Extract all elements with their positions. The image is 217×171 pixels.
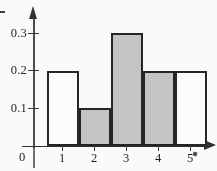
histogram-figure: 0.3 0.2 0.1 0 1 2 3 4 5 [0, 0, 217, 171]
x-tick-label-5: 5 [182, 151, 198, 166]
y-tick-mark [28, 108, 39, 109]
y-tick-label-wrap: 0.3 [0, 26, 27, 40]
histogram-bar-5 [175, 71, 207, 146]
y-tick-label-wrap: 0.1 [0, 101, 27, 115]
y-tick-mark [28, 70, 39, 71]
x-tick-label-3: 3 [118, 151, 134, 166]
x-tick-label-1: 1 [54, 151, 70, 166]
histogram-bar-2 [79, 108, 111, 146]
y-tick-label-wrap: 0.2 [0, 63, 27, 77]
y-tick-label: 0.3 [11, 26, 27, 41]
scan-speck-icon [0, 11, 5, 13]
y-tick-label: 0.1 [11, 101, 27, 116]
x-tick-label-2: 2 [86, 151, 102, 166]
up-arrow-icon [29, 6, 37, 19]
y-tick-label: 0.2 [11, 63, 27, 78]
histogram-bar-3 [111, 33, 143, 146]
histogram-bar-1 [47, 71, 79, 146]
y-tick-mark [28, 33, 39, 34]
x-tick-label-4: 4 [150, 151, 166, 166]
origin-label: 0 [14, 150, 30, 165]
histogram-bar-4 [143, 71, 175, 146]
